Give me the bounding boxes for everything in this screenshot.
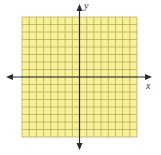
coordinate-plane: [0, 0, 161, 155]
y-axis-label: y: [84, 0, 88, 11]
y-axis-up-arrow-icon: [77, 4, 83, 11]
x-axis-label: x: [146, 80, 150, 91]
x-axis-left-arrow-icon: [6, 74, 13, 80]
y-axis-down-arrow-icon: [77, 143, 83, 150]
